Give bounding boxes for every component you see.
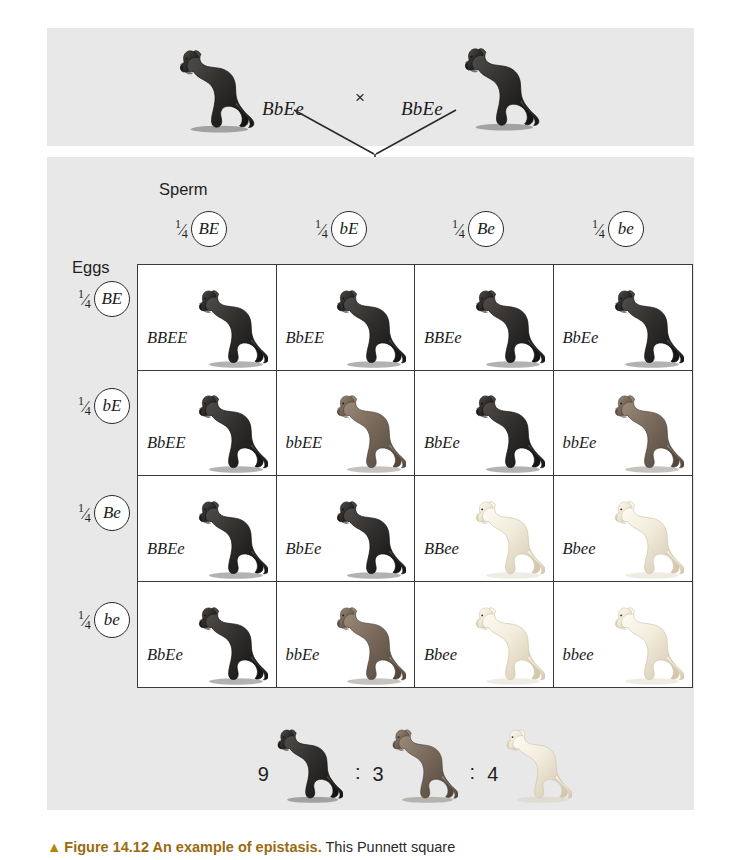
offspring-genotype: BBEE: [147, 328, 187, 348]
punnett-cell: BBEE: [138, 265, 277, 371]
egg-gamete-0-fraction: 1⁄4: [78, 288, 93, 308]
ratio-separator: :: [345, 761, 371, 784]
ratio-count: 3: [372, 763, 383, 786]
offspring-genotype: Bbee: [424, 645, 457, 665]
sperm-gamete-0-fraction: 1⁄4: [175, 218, 190, 238]
sperm-gamete-2-allele: Be: [468, 211, 504, 247]
offspring-dog-brown: [608, 382, 684, 474]
offspring-dog-black: [608, 277, 684, 369]
sperm-gamete-3-fraction: 1⁄4: [592, 218, 607, 238]
punnett-cell: bbEE: [277, 371, 416, 477]
offspring-dog-yellow: [469, 594, 545, 686]
punnett-cell: Bbee: [554, 476, 693, 582]
offspring-genotype: BBEe: [147, 539, 185, 559]
egg-gamete-2-allele: Be: [94, 495, 130, 531]
phenotype-ratio-row: 9 :3 :4: [137, 700, 693, 804]
offspring-genotype: BBee: [424, 539, 459, 559]
punnett-cell: bbEe: [554, 371, 693, 477]
egg-gamete-1-allele: bE: [94, 388, 130, 424]
offspring-dog-brown: [330, 594, 406, 686]
ratio-dog-black: [271, 716, 343, 804]
punnett-cell: BbEe: [277, 476, 416, 582]
offspring-dog-yellow: [469, 488, 545, 580]
sperm-gamete-1-fraction: 1⁄4: [315, 218, 330, 238]
parent-dog-left: [170, 36, 256, 134]
offspring-genotype: BbEE: [286, 328, 325, 348]
egg-gamete-0: 1⁄4 BE: [78, 281, 130, 317]
sperm-gamete-0: 1⁄4 BE: [175, 211, 227, 247]
offspring-genotype: Bbee: [563, 539, 596, 559]
offspring-genotype: bbEe: [286, 645, 320, 665]
ratio-group-black: 9: [258, 716, 343, 804]
sperm-gamete-3: 1⁄4 be: [592, 211, 644, 247]
sperm-gamete-1: 1⁄4 bE: [315, 211, 367, 247]
punnett-cell: BbEE: [277, 265, 416, 371]
egg-gamete-3-allele: be: [94, 602, 130, 638]
punnett-cell: BbEe: [554, 265, 693, 371]
offspring-genotype: BbEe: [563, 328, 599, 348]
ratio-group-brown: 3: [372, 716, 457, 804]
offspring-dog-black: [192, 488, 268, 580]
sperm-gamete-0-allele: BE: [191, 211, 227, 247]
offspring-genotype: BbEe: [286, 539, 322, 559]
offspring-genotype: BbEe: [147, 645, 183, 665]
ratio-dog-brown: [386, 716, 458, 804]
sperm-axis-heading: Sperm: [159, 180, 208, 199]
offspring-genotype: bbee: [563, 645, 594, 665]
caption-marker-icon: ▲: [47, 839, 61, 855]
sperm-gamete-3-allele: be: [608, 211, 644, 247]
parent-dog-right: [455, 34, 541, 132]
egg-gamete-2-fraction: 1⁄4: [78, 502, 93, 522]
egg-gamete-3-fraction: 1⁄4: [78, 609, 93, 629]
offspring-genotype: BBEe: [424, 328, 462, 348]
punnett-cell: bbee: [554, 582, 693, 688]
offspring-dog-black: [469, 382, 545, 474]
ratio-count: 9: [258, 763, 269, 786]
offspring-dog-yellow: [608, 488, 684, 580]
offspring-dog-black: [192, 277, 268, 369]
offspring-dog-black: [469, 277, 545, 369]
punnett-cell: BBee: [415, 476, 554, 582]
punnett-cell: BBEe: [138, 476, 277, 582]
ratio-separator: :: [460, 761, 486, 784]
egg-gamete-2: 1⁄4 Be: [78, 495, 130, 531]
offspring-dog-black: [330, 488, 406, 580]
offspring-genotype: BbEE: [147, 433, 186, 453]
sperm-gamete-2-fraction: 1⁄4: [452, 218, 467, 238]
sperm-gamete-1-allele: bE: [331, 211, 367, 247]
egg-gamete-0-allele: BE: [94, 281, 130, 317]
punnett-cell: Bbee: [415, 582, 554, 688]
ratio-count: 4: [487, 763, 498, 786]
offspring-dog-yellow: [608, 594, 684, 686]
sperm-gamete-2: 1⁄4 Be: [452, 211, 504, 247]
punnett-cell: BBEe: [415, 265, 554, 371]
punnett-cell: BbEe: [138, 582, 277, 688]
offspring-genotype: bbEe: [563, 433, 597, 453]
offspring-dog-black: [192, 594, 268, 686]
punnett-cell: bbEe: [277, 582, 416, 688]
egg-gamete-1-fraction: 1⁄4: [78, 395, 93, 415]
egg-gamete-1: 1⁄4 bE: [78, 388, 130, 424]
ratio-group-yellow: 4: [487, 716, 572, 804]
eggs-axis-heading: Eggs: [72, 258, 110, 277]
offspring-genotype: BbEe: [424, 433, 460, 453]
egg-gamete-3: 1⁄4 be: [78, 602, 130, 638]
offspring-genotype: bbEE: [286, 433, 323, 453]
offspring-dog-black: [192, 382, 268, 474]
punnett-cell: BbEE: [138, 371, 277, 477]
ratio-dog-yellow: [500, 716, 572, 804]
cross-symbol: ×: [355, 88, 365, 108]
caption-title: Figure 14.12 An example of epistasis.: [64, 839, 321, 855]
caption-body: This Punnett square: [325, 839, 455, 855]
offspring-dog-black: [330, 277, 406, 369]
offspring-dog-brown: [330, 382, 406, 474]
punnett-square-grid: BBEE BbEE BBEe: [137, 264, 693, 688]
punnett-cell: BbEe: [415, 371, 554, 477]
figure-caption: ▲Figure 14.12 An example of epistasis. T…: [47, 838, 707, 858]
